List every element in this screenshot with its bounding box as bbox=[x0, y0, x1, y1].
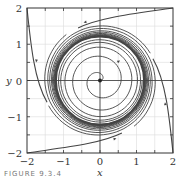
y-tick-label: −2 bbox=[7, 148, 22, 159]
spiral-trajectory bbox=[48, 26, 151, 130]
phase-portrait-chart: −2−1012 −2−1012 x y bbox=[0, 0, 179, 180]
x-tick-label: −1 bbox=[56, 156, 71, 167]
corner-trajectory bbox=[27, 133, 122, 153]
x-tick-labels: −2−1012 bbox=[20, 156, 177, 167]
arrow-icon bbox=[84, 21, 87, 24]
corner-trajectory bbox=[27, 8, 47, 102]
figure-caption: FIGURE 9.3.4 bbox=[4, 170, 62, 178]
y-tick-label: −1 bbox=[7, 112, 22, 123]
equilibrium-point bbox=[98, 79, 102, 83]
corner-trajectory bbox=[78, 8, 173, 28]
y-axis-label: y bbox=[5, 75, 12, 86]
corner-trajectory bbox=[153, 59, 173, 153]
x-tick-label: 0 bbox=[97, 156, 103, 167]
arrow-icon bbox=[113, 138, 116, 141]
y-tick-label: 2 bbox=[16, 3, 22, 14]
y-tick-label: 0 bbox=[16, 76, 22, 87]
y-tick-label: 1 bbox=[16, 39, 22, 50]
x-tick-label: 1 bbox=[133, 156, 139, 167]
arrow-icon bbox=[35, 59, 38, 62]
x-axis-label: x bbox=[97, 167, 103, 178]
x-tick-label: 2 bbox=[170, 156, 176, 167]
